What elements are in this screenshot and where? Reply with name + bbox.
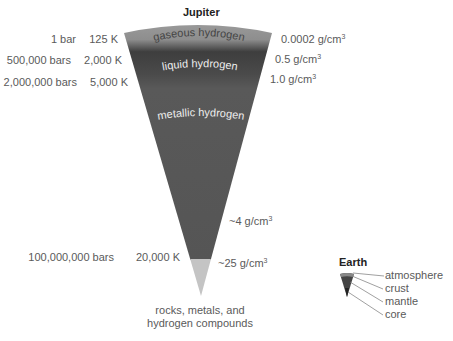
pressure-label: 100,000,000 bars	[0, 251, 114, 263]
temperature-label: 125 K	[80, 33, 118, 45]
jupiter-title: Jupiter	[183, 6, 220, 18]
density-label: 0.5 g/cm3	[275, 53, 321, 65]
temperature-label: 2,000 K	[80, 54, 122, 66]
density-label: ~4 g/cm3	[229, 215, 272, 227]
earth-title: Earth	[339, 256, 367, 268]
earth-leader-lines	[348, 273, 384, 315]
temperature-label: 5,000 K	[80, 76, 128, 88]
earth-wedge	[340, 273, 354, 297]
earth-atmosphere-label: atmosphere	[385, 269, 443, 281]
pressure-label: 500,000 bars	[0, 54, 71, 66]
pressure-label: 2,000,000 bars	[0, 76, 77, 88]
pressure-label: 1 bar	[0, 33, 76, 45]
temperature-label: 20,000 K	[130, 251, 180, 263]
earth-crust-label: crust	[385, 282, 409, 294]
core-label: rocks, metals, and hydrogen compounds	[140, 304, 260, 330]
density-label: 1.0 g/cm3	[270, 73, 316, 85]
density-label: ~25 g/cm3	[218, 257, 267, 269]
earth-mantle-label: mantle	[385, 295, 418, 307]
earth-core-label: core	[385, 308, 406, 320]
density-label: 0.0002 g/cm3	[281, 33, 345, 45]
